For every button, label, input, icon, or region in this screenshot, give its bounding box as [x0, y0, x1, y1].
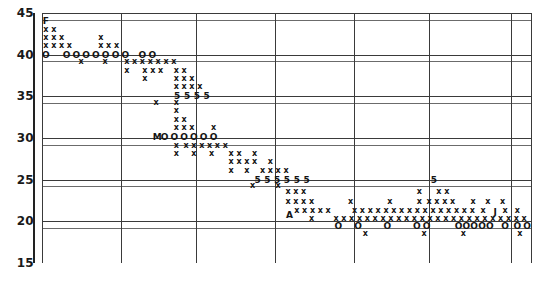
data-point-x: x: [318, 207, 323, 215]
annotation-label-a: A: [286, 210, 293, 219]
data-point-x: x: [373, 215, 378, 223]
data-point-o: O: [63, 50, 71, 59]
grid-line-horizontal: [42, 61, 532, 62]
data-point-o: O: [470, 221, 478, 230]
data-point-o: O: [190, 133, 198, 142]
annotation-label-j: J: [494, 208, 497, 217]
grid-line-horizontal: [42, 145, 532, 146]
plot-area: xxxxxxxxxxxxxxxxxxxxxxxxxxxxxxxxxxxxxxxx…: [42, 13, 532, 263]
data-point-o: O: [102, 50, 110, 59]
data-point-o: O: [72, 50, 80, 59]
y-tick-label: 25: [0, 173, 34, 187]
data-point-x: x: [174, 150, 179, 158]
data-point-o: O: [42, 50, 50, 59]
data-point-x: x: [444, 188, 449, 196]
data-point-o: O: [210, 133, 218, 142]
data-point-x: x: [404, 215, 409, 223]
data-point-x: x: [154, 99, 159, 107]
data-point-x: x: [365, 215, 370, 223]
data-point-5: 5: [294, 175, 300, 184]
data-point-o: O: [463, 221, 471, 230]
data-point-5: 5: [274, 175, 280, 184]
data-point-o: O: [501, 221, 509, 230]
data-point-5: 5: [431, 175, 437, 184]
data-point-o: O: [180, 133, 188, 142]
data-point-5: 5: [194, 92, 200, 101]
data-point-o: O: [384, 221, 392, 230]
data-point-x: x: [124, 67, 129, 75]
annotation-label-m: M: [153, 133, 162, 142]
data-point-x: x: [244, 167, 249, 175]
data-point-x: x: [191, 150, 196, 158]
data-point-o: O: [486, 221, 494, 230]
data-point-x: x: [163, 58, 168, 66]
scatter-chart: 45403530252015 xxxxxxxxxxxxxxxxxxxxxxxxx…: [0, 0, 536, 281]
data-point-x: x: [326, 207, 331, 215]
data-point-x: x: [223, 142, 228, 150]
grid-line-horizontal: [42, 20, 532, 21]
data-point-x: x: [51, 42, 56, 50]
grid-line-horizontal: [42, 103, 532, 104]
data-point-o: O: [121, 50, 129, 59]
data-point-o: O: [139, 50, 147, 59]
grid-line-vertical: [511, 13, 512, 263]
y-tick-label: 30: [0, 131, 34, 145]
data-point-5: 5: [264, 175, 270, 184]
data-point-x: x: [158, 67, 163, 75]
data-point-x: x: [461, 230, 466, 238]
data-point-o: O: [112, 50, 120, 59]
data-point-x: x: [142, 75, 147, 83]
y-axis-labels: 45403530252015: [0, 0, 34, 281]
data-point-x: x: [285, 188, 290, 196]
data-point-x: x: [132, 58, 137, 66]
data-point-x: x: [236, 158, 241, 166]
data-point-x: x: [285, 198, 290, 206]
data-point-x: x: [302, 207, 307, 215]
data-point-o: O: [92, 50, 100, 59]
data-point-5: 5: [254, 175, 260, 184]
data-point-x: x: [309, 215, 314, 223]
data-point-o: O: [82, 50, 90, 59]
grid-line-horizontal: [42, 96, 532, 97]
data-point-o: O: [478, 221, 486, 230]
y-tick-label: 35: [0, 89, 34, 103]
data-point-x: x: [443, 215, 448, 223]
data-point-5: 5: [174, 92, 180, 101]
data-point-x: x: [215, 142, 220, 150]
data-point-x: x: [150, 67, 155, 75]
grid-line-horizontal: [42, 138, 532, 139]
data-point-x: x: [252, 158, 257, 166]
annotation-label-f: F: [43, 17, 49, 26]
data-point-x: x: [301, 188, 306, 196]
data-point-x: x: [79, 58, 84, 66]
y-axis-line: [33, 13, 35, 263]
data-point-x: x: [199, 142, 204, 150]
data-point-x: x: [485, 198, 490, 206]
y-tick-label: 15: [0, 256, 34, 270]
data-point-o: O: [200, 133, 208, 142]
data-point-o: O: [335, 221, 343, 230]
data-point-x: x: [103, 58, 108, 66]
data-point-o: O: [148, 50, 156, 59]
y-tick-label: 20: [0, 214, 34, 228]
data-point-o: O: [413, 221, 421, 230]
data-point-o: O: [423, 221, 431, 230]
data-point-x: x: [422, 230, 427, 238]
data-point-5: 5: [284, 175, 290, 184]
data-point-o: O: [455, 221, 463, 230]
data-point-x: x: [183, 142, 188, 150]
data-point-o: O: [513, 221, 521, 230]
data-point-x: x: [396, 215, 401, 223]
data-point-o: O: [354, 221, 362, 230]
data-point-x: x: [293, 188, 298, 196]
data-point-x: x: [229, 167, 234, 175]
data-point-o: O: [170, 133, 178, 142]
grid-line-vertical: [275, 13, 276, 263]
y-tick-label: 45: [0, 6, 34, 20]
data-point-x: x: [209, 150, 214, 158]
data-point-x: x: [294, 207, 299, 215]
data-point-x: x: [417, 188, 422, 196]
data-point-x: x: [517, 230, 522, 238]
data-point-o: O: [161, 133, 169, 142]
data-point-x: x: [435, 215, 440, 223]
